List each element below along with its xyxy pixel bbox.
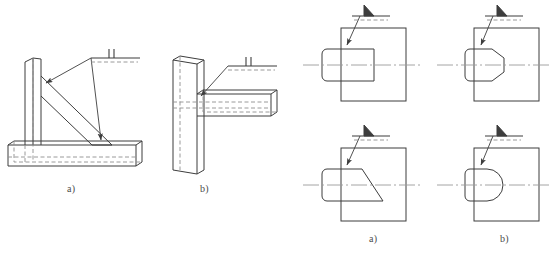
figure-right-bottom-right <box>437 125 552 221</box>
weld-leader-line-rbl <box>347 136 360 165</box>
figure-left-b <box>173 56 277 174</box>
figure-right-top-left <box>303 5 420 101</box>
figure-right-bottom-left <box>303 125 420 221</box>
drawing-sheet: a) b) a) b) <box>0 0 552 255</box>
caption-right-b: b) <box>500 233 509 244</box>
weld-symbol-rbr <box>485 125 523 140</box>
diagonal-gusset-rib-left-a <box>41 76 112 145</box>
caption-left-b: b) <box>200 183 209 194</box>
caption-right-a: a) <box>369 233 377 244</box>
weld-leader-line-rtl <box>347 16 360 45</box>
weld-symbol-rtl <box>352 5 390 20</box>
horizontal-bar-hidden-lines-left-b <box>173 90 277 112</box>
weld-symbol-rtr <box>485 5 523 20</box>
weld-leader-line-left-b <box>201 66 228 96</box>
vertical-plate-left-b <box>173 56 204 174</box>
caption-left-a: a) <box>67 183 75 194</box>
drawing-canvas <box>0 0 552 255</box>
figure-right-top-right <box>437 5 552 101</box>
weld-symbol-left-b <box>228 57 277 70</box>
vertical-plate-hidden-lines-left-a <box>25 58 33 162</box>
base-plate-hidden-lines-left-a <box>8 141 142 162</box>
weld-symbol-rbl <box>352 125 390 140</box>
weld-symbol-left-a <box>91 49 140 62</box>
plate-rbl <box>341 148 406 221</box>
figure-left-a <box>8 49 142 166</box>
